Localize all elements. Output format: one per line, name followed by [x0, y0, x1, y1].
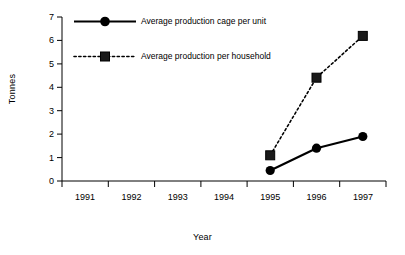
legend-marker-household [74, 52, 136, 61]
x-tick-label-1992: 1992 [111, 193, 151, 202]
legend-label-cage: Average production cage per unit [141, 17, 266, 26]
data-point-household-1995 [266, 151, 275, 160]
x-tick-label-1995: 1995 [250, 193, 290, 202]
y-tick-label-4: 4 [34, 83, 54, 92]
x-tick-label-1994: 1994 [204, 193, 244, 202]
series-household-line [270, 36, 363, 155]
legend-label-household: Average production per household [141, 52, 271, 61]
y-tick-label-6: 6 [34, 36, 54, 45]
y-tick-label-2: 2 [34, 130, 54, 139]
y-axis-title: Tonnes [7, 59, 17, 119]
data-point-cage-1997 [358, 132, 367, 141]
y-tick-label-3: 3 [34, 107, 54, 116]
x-tick-label-1996: 1996 [297, 193, 337, 202]
data-point-household-1996 [312, 73, 321, 82]
legend-marker-cage [74, 17, 136, 27]
y-tick-label-7: 7 [34, 13, 54, 22]
data-point-cage-1996 [312, 144, 321, 153]
x-tick-label-1997: 1997 [343, 193, 383, 202]
y-tick-label-0: 0 [34, 177, 54, 186]
data-point-cage-1995 [266, 166, 275, 175]
series-average-production-per-household [266, 31, 368, 159]
x-tick-label-1991: 1991 [65, 193, 105, 202]
chart-canvas [0, 0, 405, 255]
line-chart: 7 6 5 4 3 2 1 0 1991 1992 1993 1994 1995… [0, 0, 405, 255]
data-point-household-1997 [358, 31, 367, 40]
y-tick-label-5: 5 [34, 60, 54, 69]
x-axis-title: Year [0, 232, 405, 242]
y-tick-marks [57, 17, 62, 181]
x-tick-label-1993: 1993 [158, 193, 198, 202]
series-cage-line [270, 137, 363, 171]
y-tick-label-1: 1 [34, 154, 54, 163]
x-tick-marks [62, 181, 386, 187]
